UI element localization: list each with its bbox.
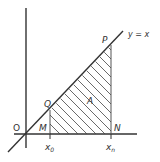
hatch-line <box>91 66 111 86</box>
hatch-line <box>104 52 111 59</box>
hatch-line <box>50 124 60 134</box>
hatch-line <box>100 57 111 68</box>
hatch-line <box>65 94 105 134</box>
tick-label-x0: x0 <box>44 142 54 153</box>
hatch-line <box>50 115 69 134</box>
hatch-line <box>96 62 111 77</box>
origin-label: O <box>13 123 20 133</box>
hatch-line <box>78 80 111 113</box>
region-label-A: A <box>86 96 93 106</box>
point-label-N: N <box>114 123 121 133</box>
line-label: y = x <box>127 30 150 39</box>
diagram-canvas: y = x P Q A M N O x0 xn <box>0 0 160 162</box>
point-label-M: M <box>39 123 47 133</box>
point-label-P: P <box>102 35 108 45</box>
tick-label-xn: xn <box>105 142 115 153</box>
region-A-hatching <box>50 48 111 134</box>
hatch-line <box>56 103 87 134</box>
point-label-Q: Q <box>44 99 51 109</box>
